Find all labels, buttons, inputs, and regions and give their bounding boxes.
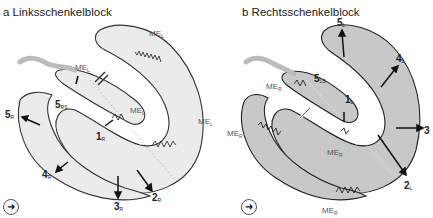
label-3: 3	[424, 125, 430, 136]
label-me-r-left: MER	[227, 129, 243, 139]
next-arrow-button[interactable]: ➜	[241, 199, 257, 215]
label-4l: 4L	[396, 53, 405, 64]
next-arrow-button[interactable]: ➜	[3, 199, 19, 215]
his-bundle	[246, 58, 294, 74]
label-me-right: MEL	[198, 117, 213, 127]
label-2l: 2L	[404, 180, 413, 191]
label-3r: 3R	[114, 201, 124, 212]
slow-conduction-zigzag	[341, 128, 349, 134]
label-me-top: MEL	[149, 29, 164, 39]
label-me-septal: MEL	[75, 63, 90, 73]
panel-left-bundle-branch-block: a Linksschenkelblock MEL MEL	[0, 0, 216, 218]
label-me-r-bottom: MER	[322, 206, 338, 216]
heart-diagram-b: 5L 4L 5LS MER 1L 3 MER MER 2L MER	[216, 0, 433, 218]
label-5r: 5R	[5, 109, 15, 120]
label-5ls: 5LS	[314, 73, 326, 84]
label-1l: 1L	[345, 94, 354, 105]
label-5rs: 5RS	[55, 99, 68, 110]
label-5l: 5L	[337, 17, 346, 28]
heart-diagram-a: MEL MEL MEL MEL 5RS 1R 5R 4R 3R 2R	[0, 0, 216, 218]
block-marker	[300, 108, 310, 118]
label-me-r-septal: MER	[266, 82, 282, 92]
label-2r: 2R	[152, 192, 162, 203]
panel-right-bundle-branch-block: b Rechtsschenkelblock 5L 4L 5LS MER 1L 3…	[216, 0, 432, 218]
his-bundle	[20, 58, 75, 70]
